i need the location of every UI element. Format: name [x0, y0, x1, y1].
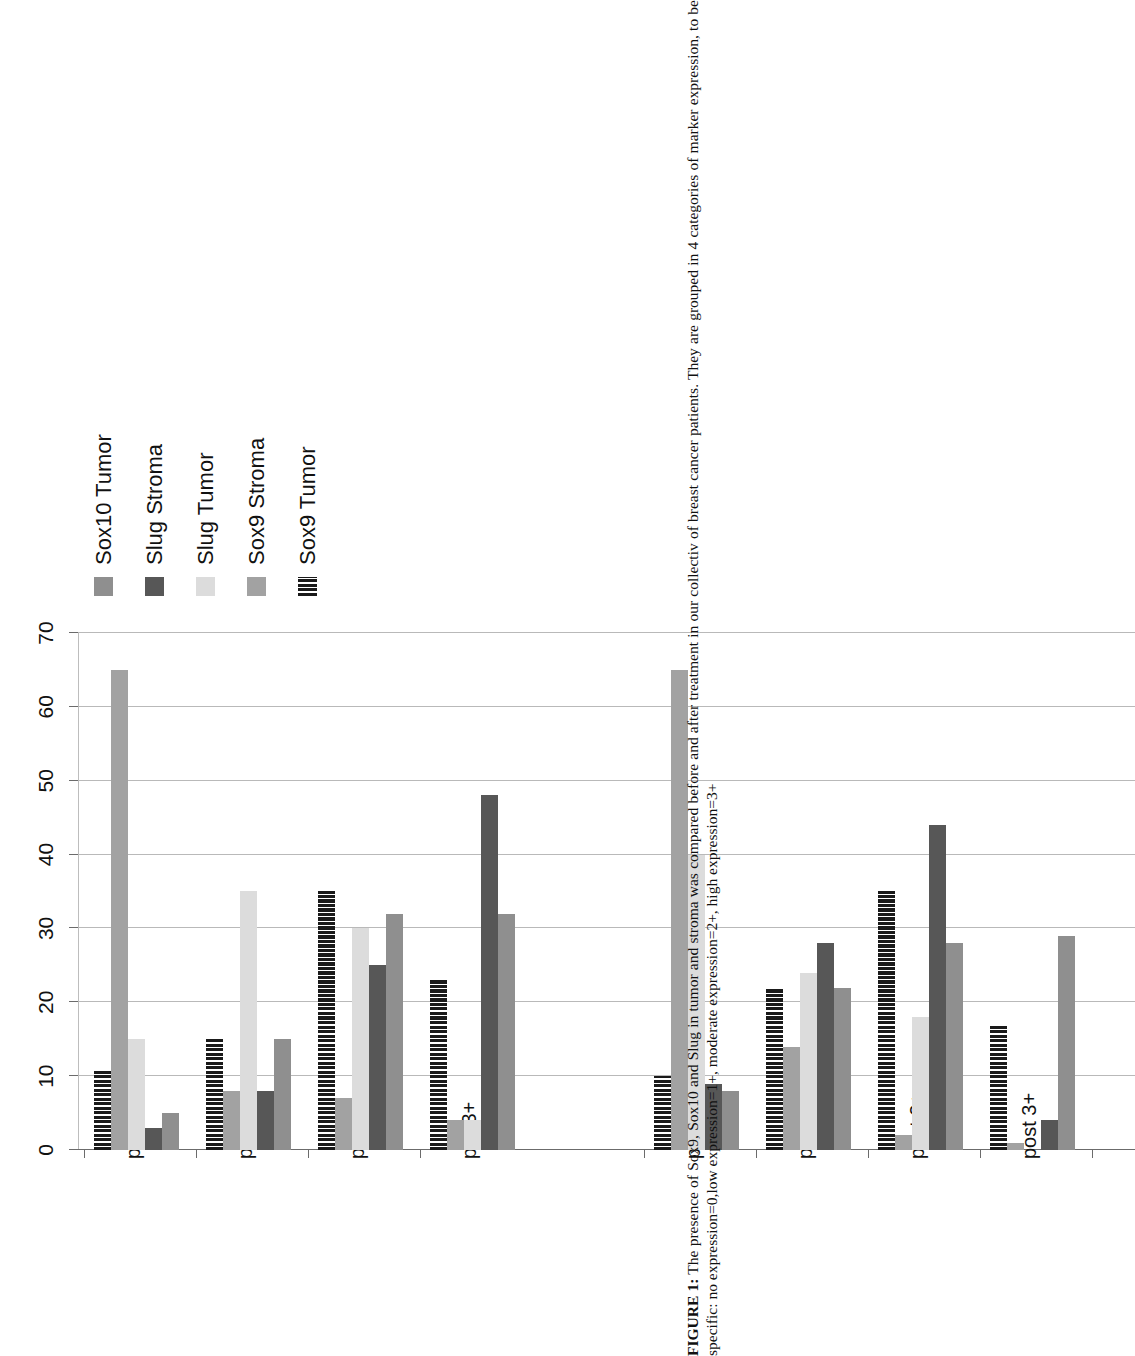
- x-tick-label: 20: [34, 991, 58, 1014]
- x-tick-mark: [69, 1149, 78, 1150]
- legend-swatch: [94, 577, 113, 596]
- legend-item: Slug Tumor: [180, 266, 231, 596]
- x-tick-mark: [69, 706, 78, 707]
- bar: [946, 943, 963, 1150]
- x-gridline: [78, 927, 1135, 928]
- category-axis-end-tick: [1092, 1150, 1093, 1158]
- bar: [766, 988, 783, 1150]
- caption-label: FIGURE 1:: [684, 1279, 701, 1356]
- bar: [895, 1135, 912, 1150]
- plot-area: 010203040506070pre 0pre 1+pre 2+pre 3+po…: [78, 633, 1135, 1150]
- bar: [206, 1039, 223, 1150]
- x-gridline: [78, 1001, 1135, 1002]
- bar: [817, 943, 834, 1150]
- bar: [145, 1128, 162, 1150]
- category-tick: [868, 1150, 869, 1158]
- legend-label: Sox9 Tumor: [295, 446, 321, 565]
- bar: [447, 1120, 464, 1150]
- legend-swatch: [145, 577, 164, 596]
- bar: [162, 1113, 179, 1150]
- x-tick-mark: [69, 780, 78, 781]
- bar: [464, 1120, 481, 1150]
- bar: [128, 1039, 145, 1150]
- legend-label: Sox10 Tumor: [91, 434, 117, 565]
- bar: [94, 1069, 111, 1150]
- bar: [274, 1039, 291, 1150]
- x-tick-label: 60: [34, 695, 58, 718]
- category-tick: [644, 1150, 645, 1158]
- chart-legend: Sox10 TumorSlug StromaSlug TumorSox9 Str…: [78, 266, 333, 596]
- legend-swatch: [298, 577, 317, 596]
- x-tick-mark: [69, 1075, 78, 1076]
- category-tick: [84, 1150, 85, 1158]
- legend-label: Slug Stroma: [142, 444, 168, 565]
- legend-item: Sox9 Stroma: [231, 266, 282, 596]
- x-tick-label: 10: [34, 1064, 58, 1087]
- x-gridline: [78, 706, 1135, 707]
- bar: [800, 973, 817, 1150]
- bar: [878, 892, 895, 1151]
- bar: [929, 825, 946, 1150]
- bar: [240, 892, 257, 1151]
- bar: [335, 1098, 352, 1150]
- bar: [318, 892, 335, 1151]
- caption-text: The presence of Sox9, Sox10 and Slug in …: [684, 0, 720, 1356]
- legend-item: Slug Stroma: [129, 266, 180, 596]
- bar: [834, 988, 851, 1150]
- legend-label: Sox9 Stroma: [244, 438, 270, 565]
- bar: [654, 1076, 671, 1150]
- bar: [369, 965, 386, 1150]
- x-gridline: [78, 1075, 1135, 1076]
- legend-swatch: [196, 577, 215, 596]
- legend-label: Slug Tumor: [193, 453, 219, 566]
- plot-top-rule: [78, 633, 79, 1150]
- bar: [1058, 936, 1075, 1150]
- bar: [481, 796, 498, 1151]
- legend-item: Sox10 Tumor: [78, 266, 129, 596]
- bar: [111, 670, 128, 1150]
- bar: [912, 1017, 929, 1150]
- x-tick-mark: [69, 927, 78, 928]
- x-tick-label: 70: [34, 621, 58, 644]
- legend-item: Sox9 Tumor: [282, 266, 333, 596]
- bar-chart: 010203040506070pre 0pre 1+pre 2+pre 3+po…: [20, 186, 660, 1296]
- bar: [352, 928, 369, 1150]
- x-tick-label: 30: [34, 917, 58, 940]
- bar: [257, 1091, 274, 1150]
- x-tick-mark: [69, 1001, 78, 1002]
- bar: [1007, 1143, 1024, 1150]
- category-tick: [980, 1150, 981, 1158]
- x-gridline: [78, 854, 1135, 855]
- bar: [1041, 1120, 1058, 1150]
- legend-swatch: [247, 577, 266, 596]
- x-tick-label: 50: [34, 769, 58, 792]
- x-tick-label: 40: [34, 843, 58, 866]
- figure-caption: FIGURE 1: The presence of Sox9, Sox10 an…: [683, 0, 721, 1356]
- category-tick: [308, 1150, 309, 1158]
- bar: [990, 1024, 1007, 1150]
- category-tick: [196, 1150, 197, 1158]
- bar: [498, 914, 515, 1150]
- x-tick-label: 0: [34, 1144, 58, 1156]
- x-gridline: [78, 780, 1135, 781]
- category-tick: [756, 1150, 757, 1158]
- bar: [223, 1091, 240, 1150]
- bar: [722, 1091, 739, 1150]
- bar: [783, 1047, 800, 1150]
- category-tick: [420, 1150, 421, 1158]
- bar: [386, 914, 403, 1150]
- x-tick-mark: [69, 632, 78, 633]
- bar: [430, 980, 447, 1150]
- x-gridline: [78, 632, 1135, 633]
- x-tick-mark: [69, 854, 78, 855]
